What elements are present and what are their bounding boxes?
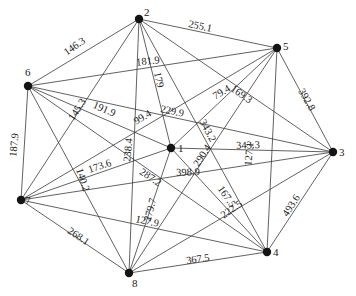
edge-2-6 [28,19,139,86]
edge-3-4 [267,152,333,252]
edge-weight-label: 268.1 [66,225,92,247]
edge-weight-label: 146.3 [62,35,88,58]
edge-1-5 [171,48,277,148]
node-label: 3 [339,146,345,158]
edge-weight-label: 179 [152,71,166,89]
edge-weight-label: 127.9 [135,213,160,229]
node-3 [329,148,337,156]
node-1 [167,144,175,152]
node-6 [24,82,32,90]
edge-weight-label: 187.9 [7,133,20,157]
edge-6-7 [21,86,28,200]
edge-label-layer: 146.3255.1392.8493.6367.5268.1187.9181.9… [7,18,317,266]
node-label: 2 [144,6,150,18]
node-label: 1 [178,142,184,154]
node-2 [135,15,143,23]
edge-weight-label: 290.4 [191,142,214,168]
edge-weight-label: 127.1 [242,142,255,166]
edge-weight-label: 173.6 [87,157,113,175]
node-label: 6 [25,66,31,78]
edge-weight-label: 255.1 [188,18,213,34]
edge-weight-label: 222.5 [219,198,245,221]
node-8 [125,269,133,277]
edge-weight-label: 191.9 [91,99,117,118]
edge-weight-label: 367.5 [185,252,210,266]
edge-weight-label: 392.8 [296,86,317,112]
edge-weight-label: 238.4 [121,137,134,162]
edge-4-5 [267,48,277,252]
edge-weight-label: 181.9 [136,54,161,67]
node-label: 8 [132,277,138,289]
node-5 [273,44,281,52]
edge-weight-label: 398.9 [176,166,200,178]
node-label: 5 [283,40,289,52]
node-4 [263,248,271,256]
node-label: 4 [273,246,279,258]
edge-weight-label: 287.2 [138,166,164,188]
node-7 [17,196,25,204]
weighted-graph-diagram: 146.3255.1392.8493.6367.5268.1187.9181.9… [0,0,356,296]
edge-weight-label: 145.3 [66,97,88,123]
node-label: 7 [25,194,31,206]
edge-weight-label: 493.6 [280,193,302,219]
